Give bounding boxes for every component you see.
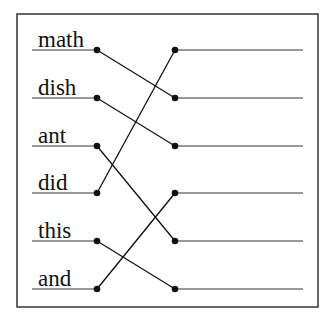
word-label: ant [38,124,66,147]
connector-line [97,50,175,193]
frame-border [17,14,318,307]
word-label: did [38,171,67,194]
connector-line [97,193,175,289]
connector-line [97,50,175,98]
connector-line [97,241,175,289]
word-label: this [38,219,71,242]
word-label: and [38,267,71,290]
word-label: math [38,28,84,51]
word-label: dish [38,76,76,99]
connector-line [97,146,175,241]
